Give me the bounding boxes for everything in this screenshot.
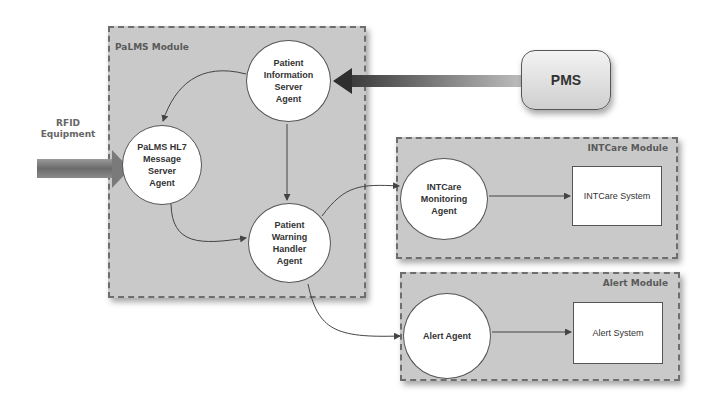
pms-label: PMS	[551, 72, 581, 88]
info-to-hl7-edge	[163, 71, 246, 121]
rfid-arrow	[37, 150, 130, 188]
warning-to-alert-edge	[308, 284, 400, 336]
intcare-system-box: INTCare System	[572, 166, 662, 226]
alert-agent: Alert Agent	[403, 293, 491, 379]
warning-to-intcare-edge	[322, 185, 399, 216]
pms-node: PMS	[521, 50, 611, 110]
alert-system-box: Alert System	[573, 302, 663, 364]
patient-information-server-agent: Patient Information Server Agent	[246, 40, 331, 122]
intcare-monitoring-agent: INTCare Monitoring Agent	[400, 158, 488, 240]
hl7-to-warning-edge	[171, 204, 246, 241]
rfid-label: RFID Equipment	[38, 118, 98, 140]
pms-to-info-arrow	[333, 68, 522, 94]
patient-warning-handler-agent: Patient Warning Handler Agent	[248, 203, 331, 283]
palms-hl7-message-server-agent: PaLMS HL7 Message Server Agent	[122, 125, 202, 205]
